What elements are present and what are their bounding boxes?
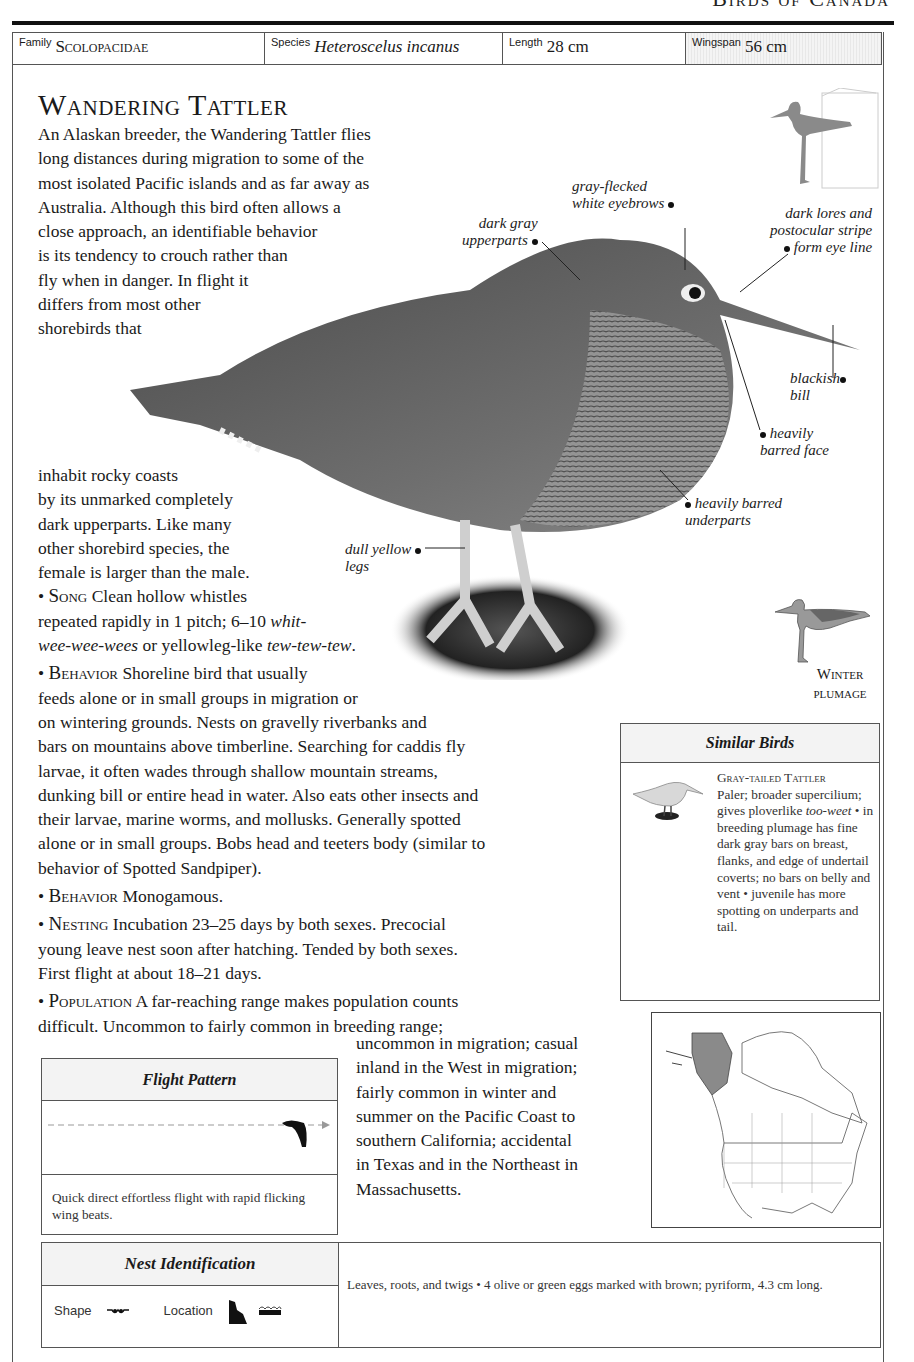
north-america-map <box>652 1013 880 1227</box>
text-line: An Alaskan breeder, the Wandering Tattle… <box>38 122 458 146</box>
dot-marker <box>760 432 766 438</box>
bird-silhouette-icon <box>760 88 880 198</box>
breeding-behavior-section: • Behavior Monogamous. <box>38 884 638 908</box>
nesting-section: • Nesting Incubation 23–25 days by both … <box>38 912 638 936</box>
nest-identification-box: Nest Identification Shape Location Leave… <box>41 1242 881 1348</box>
behavior-section: • Behavior Shoreline bird that usually <box>38 661 638 685</box>
wingspan-value: 56 cm <box>745 37 787 57</box>
flight-pattern-box: Flight Pattern Quick direct effortless f… <box>41 1058 338 1235</box>
range-map <box>651 1012 881 1228</box>
winter-plumage-illustration <box>770 590 880 670</box>
flight-path-icon <box>42 1101 337 1174</box>
length-value: 28 cm <box>547 37 589 57</box>
population-continued: uncommon in migration; casual inland in … <box>356 1031 646 1201</box>
flying-bird-icon <box>282 1121 307 1148</box>
breeding-range-area <box>692 1033 732 1095</box>
wingspan-cell: Wingspan 56 cm <box>686 33 881 64</box>
gray-tailed-tattler-illustration <box>631 772 705 822</box>
population-section: • Population A far-reaching range makes … <box>38 989 638 1013</box>
dot-marker <box>784 246 790 252</box>
similar-birds-title: Similar Birds <box>621 724 879 763</box>
location-label: Location <box>164 1303 213 1318</box>
text-line: most isolated Pacific islands and as far… <box>38 171 458 195</box>
flight-pattern-diagram <box>42 1101 337 1175</box>
species-value: Heteroscelus incanus <box>314 37 459 57</box>
page-title: Wandering Tattler <box>38 88 288 122</box>
length-label: Length <box>509 36 543 48</box>
winter-plumage-label: Winter plumage <box>800 665 880 703</box>
callout-bill: blackish bill <box>790 370 846 404</box>
top-rule <box>12 21 894 25</box>
behavior-heading: Behavior <box>49 662 119 683</box>
main-text: inhabit rocky coasts by its unmarked com… <box>38 463 638 1038</box>
callout-underparts: heavily barred underparts <box>685 495 782 529</box>
nest-location-icon <box>227 1296 287 1324</box>
callout-eyebrows: gray-flecked white eyebrows <box>572 178 674 212</box>
similar-bird-description: Gray-tailed Tattler Paler; broader super… <box>717 770 877 936</box>
dot-marker <box>840 377 846 383</box>
nest-shape-icon <box>106 1304 130 1316</box>
shape-label: Shape <box>54 1303 92 1318</box>
family-value: Scolopacidae <box>55 37 148 57</box>
species-label: Species <box>271 36 310 48</box>
song-heading: Song <box>49 585 88 606</box>
nesting-heading: Nesting <box>49 913 109 934</box>
similar-birds-box: Similar Birds Gray-tailed Tattler Paler;… <box>620 723 880 1001</box>
text-line: long distances during migration to some … <box>38 146 458 170</box>
callout-upperparts: dark gray upperparts <box>462 215 538 249</box>
length-cell: Length 28 cm <box>503 33 686 64</box>
population-heading: Population <box>49 990 133 1011</box>
species-cell: Species Heteroscelus incanus <box>265 33 503 64</box>
wingspan-label: Wingspan <box>692 36 741 48</box>
family-cell: Family Scolopacidae <box>13 33 265 64</box>
running-head: Birds of Canada <box>712 0 890 12</box>
nest-identification-title: Nest Identification <box>42 1243 338 1286</box>
callout-face: heavily barred face <box>760 425 829 459</box>
dot-marker <box>668 202 674 208</box>
callout-lores: dark lores and postocular stripe form ey… <box>770 205 872 256</box>
flight-pattern-title: Flight Pattern <box>42 1059 337 1101</box>
song-section: • Song Clean hollow whistles <box>38 584 638 608</box>
info-bar: Family Scolopacidae Species Heteroscelus… <box>12 32 882 65</box>
dot-marker <box>685 502 691 508</box>
family-label: Family <box>19 36 51 48</box>
dot-marker <box>532 239 538 245</box>
nest-description: Leaves, roots, and twigs • 4 olive or gr… <box>339 1243 880 1347</box>
similar-bird-name: Gray-tailed Tattler <box>717 770 826 785</box>
flight-pattern-description: Quick direct effortless flight with rapi… <box>42 1175 337 1238</box>
